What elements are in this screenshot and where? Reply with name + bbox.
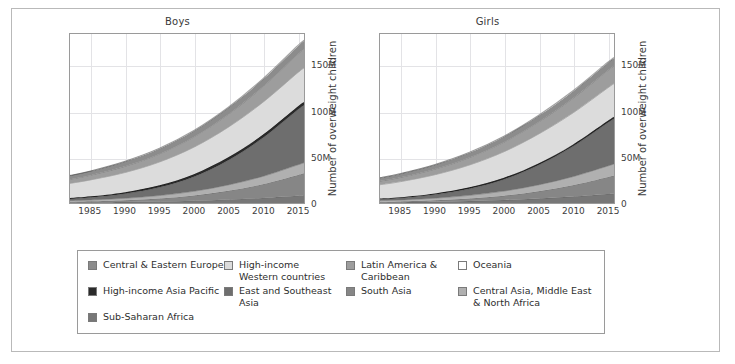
- x-tick-label: 1990: [423, 206, 446, 216]
- y-axis-title-text-girls: Number of overweight children: [638, 41, 649, 196]
- legend-grid: Central & Eastern EuropeHigh-income West…: [88, 259, 598, 337]
- legend-item[interactable]: High-income Asia Pacific: [88, 285, 224, 311]
- x-tick-label: 2010: [562, 206, 585, 216]
- legend-swatch-icon: [88, 287, 97, 296]
- legend-item-label: South Asia: [361, 285, 412, 297]
- y-tick-label: 0: [311, 199, 317, 209]
- legend-swatch-icon: [346, 287, 355, 296]
- x-tick-label: 2000: [182, 206, 205, 216]
- legend-item[interactable]: East and Southeast Asia: [224, 285, 346, 311]
- x-tick-label: 2015: [287, 206, 310, 216]
- legend-swatch-icon: [224, 261, 233, 270]
- x-axis-girls: 1985199019952000200520102015: [379, 206, 615, 220]
- legend-item[interactable]: South Asia: [346, 285, 458, 311]
- x-tick-label: 1995: [458, 206, 481, 216]
- legend-item-label: Central Asia, Middle East & North Africa: [473, 285, 591, 308]
- legend-item-label: High-income Western countries: [239, 259, 325, 282]
- x-tick-label: 1995: [148, 206, 171, 216]
- panel-girls: Girls 1985199019952000200520102015 050M1…: [360, 16, 651, 234]
- legend-item-label: Central & Eastern Europe: [103, 259, 224, 271]
- panel-boys: Boys 1985199019952000200520102015 050M10…: [50, 16, 341, 234]
- x-tick-label: 2010: [252, 206, 275, 216]
- legend-swatch-icon: [458, 287, 467, 296]
- legend-swatch-icon: [224, 287, 233, 296]
- x-tick-label: 2015: [597, 206, 620, 216]
- y-axis-title-boys: Number of overweight children: [326, 33, 340, 204]
- x-tick-label: 1985: [388, 206, 411, 216]
- x-tick-label: 1990: [113, 206, 136, 216]
- plot-area-girls: [379, 33, 615, 204]
- x-tick-label: 2005: [527, 206, 550, 216]
- legend-item[interactable]: Central Asia, Middle East & North Africa: [458, 285, 598, 311]
- legend-item[interactable]: Central & Eastern Europe: [88, 259, 224, 285]
- legend-item[interactable]: Sub-Saharan Africa: [88, 311, 224, 337]
- legend: Central & Eastern EuropeHigh-income West…: [77, 250, 605, 334]
- legend-item[interactable]: High-income Western countries: [224, 259, 346, 285]
- x-axis-boys: 1985199019952000200520102015: [69, 206, 305, 220]
- legend-swatch-icon: [88, 261, 97, 270]
- y-axis-title-girls: Number of overweight children: [636, 33, 650, 204]
- panel-title-girls: Girls: [360, 16, 615, 27]
- plot-area-boys: [69, 33, 305, 204]
- legend-item-label: High-income Asia Pacific: [103, 285, 219, 297]
- figure-root: Boys 1985199019952000200520102015 050M10…: [0, 0, 735, 364]
- legend-swatch-icon: [88, 313, 97, 322]
- legend-item[interactable]: Latin America & Caribbean: [346, 259, 458, 285]
- legend-item-label: Latin America & Caribbean: [361, 259, 437, 282]
- x-tick-label: 2005: [217, 206, 240, 216]
- legend-item-label: East and Southeast Asia: [239, 285, 331, 308]
- legend-swatch-icon: [346, 261, 355, 270]
- legend-item-label: Sub-Saharan Africa: [103, 311, 194, 323]
- x-tick-label: 2000: [492, 206, 515, 216]
- legend-item[interactable]: Oceania: [458, 259, 598, 285]
- panel-title-boys: Boys: [50, 16, 305, 27]
- x-tick-label: 1985: [78, 206, 101, 216]
- legend-swatch-icon: [458, 261, 467, 270]
- y-axis-title-text-boys: Number of overweight children: [328, 41, 339, 196]
- area-chart-girls: [380, 34, 614, 203]
- y-tick-label: 0: [621, 199, 627, 209]
- area-chart-boys: [70, 34, 304, 203]
- legend-item-label: Oceania: [473, 259, 512, 271]
